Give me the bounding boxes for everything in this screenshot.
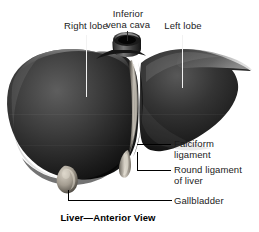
figure-caption: Liver—Anterior View xyxy=(38,212,178,223)
leader-line-round-ligament-horizontal xyxy=(137,170,171,171)
leader-line-inferior-vena-cava xyxy=(127,31,128,41)
leader-line-falciform-ligament xyxy=(137,144,171,145)
label-left-lobe: Left lobe xyxy=(155,20,211,31)
label-gallbladder: Gallbladder xyxy=(174,195,258,206)
label-falciform-ligament: Falciform ligament xyxy=(174,138,258,160)
leader-line-gallbladder-horizontal xyxy=(68,200,172,201)
liver-anatomy-figure: Right lobe Inferior vena cava Left lobe … xyxy=(0,0,259,232)
leader-line-round-ligament-vertical xyxy=(137,152,138,171)
leader-line-left-lobe xyxy=(182,35,183,88)
label-round-ligament-of-liver: Round ligament of liver xyxy=(174,164,259,186)
label-inferior-vena-cava: Inferior vena cava xyxy=(98,8,158,30)
leader-line-right-lobe xyxy=(86,35,87,97)
